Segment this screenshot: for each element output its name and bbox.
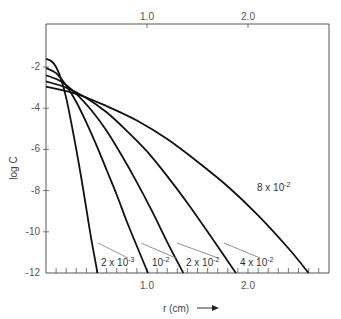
curve-2	[46, 75, 183, 273]
y-tick-label-m12: -12	[26, 267, 41, 278]
arrow-right-icon	[197, 305, 219, 311]
y-tick-label-m8: -8	[31, 185, 40, 196]
curve-4	[46, 87, 309, 273]
y-tick-label-m4: -4	[31, 102, 40, 113]
curve-1	[46, 68, 148, 273]
chart: 1.0 2.0 1.0 2.0 -2 -4 -6 -8 -10 -12 log …	[0, 0, 341, 319]
x-axis-title: r (cm)	[163, 303, 189, 314]
bottom-tick-label-2: 2.0	[241, 280, 255, 291]
curve-label-2e-3: 2 x 10-3	[101, 256, 135, 268]
curve-label-8e-2: 8 x 10-2	[257, 181, 291, 193]
label-leader-lines	[98, 243, 260, 258]
y-tick-label-m6: -6	[31, 143, 40, 154]
curve-3	[46, 81, 236, 273]
y-tick-label-m2: -2	[31, 61, 40, 72]
curve-label-2e-2: 2 x 10-2	[186, 256, 220, 268]
top-tick-label-1: 1.0	[140, 11, 154, 22]
y-axis-title: log C	[8, 156, 19, 179]
y-tick-label-m10: -10	[26, 226, 41, 237]
curve-label-1e-2: 10-2	[152, 256, 169, 268]
curve-label-4e-2: 4 x 10-2	[240, 256, 274, 268]
plot-frame	[46, 24, 329, 273]
bottom-tick-label-1: 1.0	[140, 280, 154, 291]
top-tick-label-2: 2.0	[241, 11, 255, 22]
curves	[46, 59, 309, 273]
